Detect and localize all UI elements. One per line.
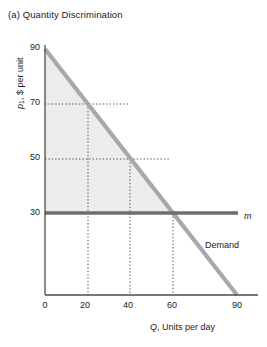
plot-area [0, 0, 267, 347]
figure-panel: (a) Quantity Discrimination p1, $ per un… [0, 0, 267, 347]
